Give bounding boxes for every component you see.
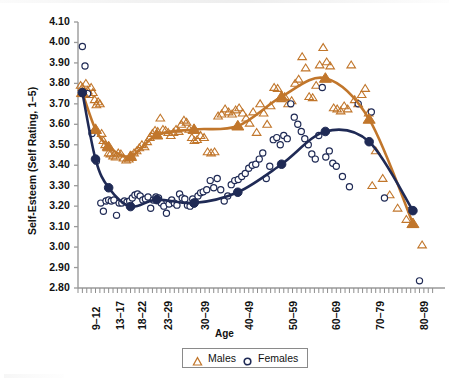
y-axis-title: Self-Esteem (Self Rating, 1–5) [26, 87, 38, 235]
self-esteem-by-age-chart: 4.104.003.903.803.703.603.503.403.303.20… [0, 0, 449, 383]
trend-marker [409, 206, 418, 215]
scatter-point [291, 114, 297, 120]
scatter-point [416, 278, 422, 284]
trend-marker [276, 91, 288, 101]
x-tick-label: 70–79 [374, 301, 386, 330]
scatter-point [263, 120, 272, 127]
y-tick-label: 3.10 [36, 220, 70, 232]
x-tick-label: 9–12 [90, 307, 102, 330]
scatter-point [182, 118, 191, 125]
trend-marker [126, 202, 135, 211]
y-tick-label: 3.00 [36, 240, 70, 252]
circle-marker-icon [242, 353, 253, 364]
scatter-point [378, 175, 387, 182]
y-tick-label: 3.40 [36, 158, 70, 170]
scatter-point [381, 195, 387, 201]
scatter-point [393, 204, 402, 211]
scatter-point [256, 100, 265, 107]
scatter-point [82, 79, 91, 86]
trend-marker [153, 195, 162, 204]
x-tick-label: 18–22 [136, 301, 148, 330]
scatter-point [319, 84, 325, 90]
triangle-marker-icon [192, 353, 203, 364]
scatter-point [284, 136, 290, 142]
scatter-point [79, 43, 85, 49]
y-tick-label: 3.20 [36, 199, 70, 211]
legend-item-females: Females [242, 352, 298, 364]
y-tick-label: 3.50 [36, 138, 70, 150]
trend-marker [104, 183, 113, 192]
scatter-point [323, 154, 329, 160]
scatter-point [298, 53, 307, 60]
scatter-point [326, 62, 335, 69]
y-tick-label: 3.30 [36, 179, 70, 191]
trend-marker [190, 199, 199, 208]
scatter-point [113, 212, 119, 218]
scatter-point [346, 184, 352, 190]
scatter-point [326, 148, 332, 154]
scatter-point [182, 196, 188, 202]
scatter-point [368, 182, 377, 189]
y-tick-label: 2.90 [36, 261, 70, 273]
scatter-point [156, 114, 165, 121]
scatter-point [277, 142, 283, 148]
scatter-point [339, 173, 345, 179]
y-tick-label: 2.80 [36, 281, 70, 293]
x-tick-label: 23–29 [162, 301, 174, 330]
y-tick-label: 3.80 [36, 76, 70, 88]
scatter-point [207, 177, 213, 183]
scatter-point [288, 101, 294, 107]
trend-marker [89, 124, 101, 134]
chart-legend: MalesFemales [182, 348, 308, 368]
y-tick-label: 4.10 [36, 15, 70, 27]
x-tick-label: 60–69 [330, 301, 342, 330]
trend-marker [233, 188, 242, 197]
legend-item-males: Males [192, 352, 236, 364]
x-tick-label: 13–17 [114, 301, 126, 330]
scatter-point [301, 64, 310, 71]
x-tick-label: 30–39 [199, 301, 211, 330]
scatter-point [163, 210, 169, 216]
scatter-point [294, 75, 303, 82]
scatter-point [333, 163, 339, 169]
scatter-point [256, 156, 262, 162]
y-tick-label: 3.90 [36, 56, 70, 68]
scatter-point [218, 187, 224, 193]
scatter-point [361, 85, 370, 92]
scatter-point [211, 185, 217, 191]
y-tick-label: 4.00 [36, 35, 70, 47]
y-tick-label: 3.60 [36, 117, 70, 129]
legend-label: Males [208, 352, 236, 364]
trend-marker [78, 88, 87, 97]
scatter-point [347, 61, 356, 68]
scatter-point [312, 156, 318, 162]
series-scatter-females [79, 43, 422, 283]
trend-marker [321, 127, 330, 136]
scatter-point [298, 128, 304, 134]
scatter-point [214, 175, 220, 181]
x-tick-label: 40–49 [243, 301, 255, 330]
trend-marker [91, 155, 100, 164]
scatter-point [295, 121, 301, 127]
scatter-point [204, 187, 210, 193]
y-tick-label: 3.70 [36, 97, 70, 109]
trend-marker [365, 137, 374, 146]
scatter-point [267, 163, 273, 169]
scatter-point [418, 241, 427, 248]
scatter-point [82, 63, 88, 69]
scatter-point [252, 129, 261, 136]
scatter-point [260, 150, 266, 156]
trend-markers-females [78, 88, 417, 215]
scatter-point [274, 135, 280, 141]
scatter-point [148, 205, 154, 211]
scatter-point [319, 44, 328, 51]
x-axis-title: Age [215, 328, 234, 339]
legend-label: Females [258, 352, 298, 364]
x-tick-label: 50–59 [287, 301, 299, 330]
trend-marker [277, 160, 286, 169]
x-tick-label: 80–89 [418, 301, 430, 330]
scatter-point [100, 208, 106, 214]
